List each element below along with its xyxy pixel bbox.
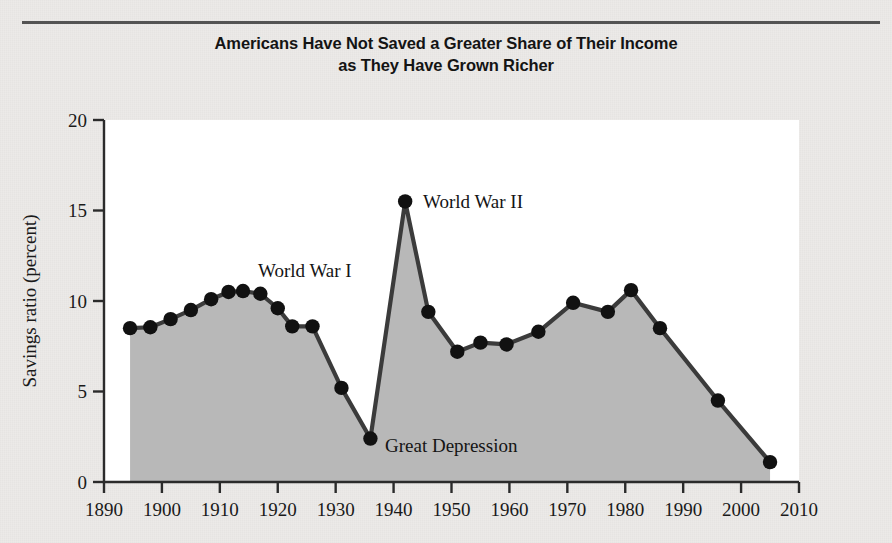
x-tick-label-1950: 1950 [433, 499, 471, 520]
x-axis-ticks: 1890190019101920193019401950196019701980… [85, 482, 818, 520]
y-tick-label-5: 5 [78, 381, 88, 402]
chart-svg: 1890190019101920193019401950196019701980… [0, 0, 892, 543]
y-tick-label-10: 10 [68, 291, 87, 312]
data-point-1959.5 [499, 337, 513, 351]
x-tick-label-1920: 1920 [259, 499, 297, 520]
x-tick-label-1910: 1910 [201, 499, 239, 520]
x-tick-label-1980: 1980 [606, 499, 644, 520]
x-tick-label-1900: 1900 [143, 499, 181, 520]
data-point-1920 [271, 301, 285, 315]
data-point-1955 [473, 335, 487, 349]
data-point-1965 [531, 325, 545, 339]
x-tick-label-1940: 1940 [375, 499, 413, 520]
data-point-1922.5 [285, 319, 299, 333]
data-point-1946 [421, 305, 435, 319]
y-axis-ticks: 05101520 [68, 110, 104, 493]
chart-figure: 1890190019101920193019401950196019701980… [0, 0, 892, 543]
y-axis-title: Savings ratio (percent) [19, 214, 41, 387]
data-point-1911.5 [221, 285, 235, 299]
data-point-1936 [363, 431, 377, 445]
data-point-1931 [334, 381, 348, 395]
x-tick-label-1930: 1930 [317, 499, 355, 520]
annotation-world-war-i: World War I [258, 260, 352, 281]
data-point-1981 [624, 283, 638, 297]
data-point-1905 [184, 303, 198, 317]
data-point-2005 [763, 455, 777, 469]
x-tick-label-1890: 1890 [85, 499, 123, 520]
data-point-1894.5 [123, 321, 137, 335]
data-point-1926 [305, 319, 319, 333]
data-point-1901.5 [163, 312, 177, 326]
x-tick-label-1990: 1990 [664, 499, 702, 520]
annotation-great-depression: Great Depression [385, 435, 518, 456]
data-point-1942 [398, 194, 412, 208]
y-tick-label-20: 20 [68, 110, 87, 131]
data-point-1898 [143, 320, 157, 334]
x-tick-label-2010: 2010 [780, 499, 818, 520]
data-point-1917 [253, 287, 267, 301]
data-point-1996 [711, 393, 725, 407]
annotation-world-war-ii: World War II [423, 191, 523, 212]
y-axis-label: Savings ratio (percent) [19, 214, 41, 387]
data-point-1977 [601, 305, 615, 319]
x-tick-label-2000: 2000 [722, 499, 760, 520]
y-tick-label-0: 0 [78, 472, 88, 493]
data-point-1914 [236, 284, 250, 298]
x-tick-label-1960: 1960 [490, 499, 528, 520]
x-tick-label-1970: 1970 [548, 499, 586, 520]
y-tick-label-15: 15 [68, 200, 87, 221]
data-point-1986 [653, 321, 667, 335]
data-point-1951 [450, 344, 464, 358]
data-point-1971 [566, 296, 580, 310]
data-point-1908.5 [204, 292, 218, 306]
